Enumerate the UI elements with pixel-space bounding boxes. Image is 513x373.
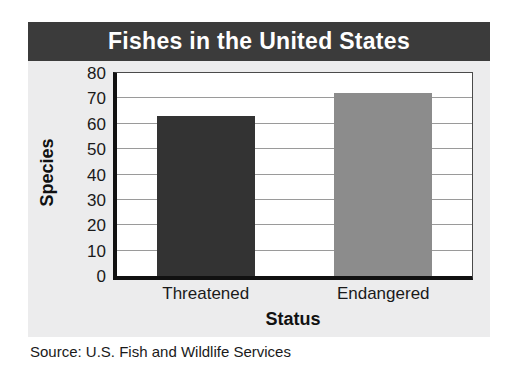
x-axis-title: Status	[113, 309, 473, 330]
y-tick-0: 0	[97, 268, 106, 285]
y-tick-50: 50	[87, 141, 106, 158]
chart-figure: Fishes in the United States Species 0102…	[0, 0, 513, 373]
y-tick-70: 70	[87, 90, 106, 107]
y-tick-60: 60	[87, 115, 106, 132]
y-axis-title-label: Species	[37, 138, 58, 206]
y-tick-10: 10	[87, 242, 106, 259]
y-tick-80: 80	[87, 65, 106, 82]
y-tick-40: 40	[87, 166, 106, 183]
chart-title-band: Fishes in the United States	[28, 22, 490, 61]
y-tick-20: 20	[87, 217, 106, 234]
x-axis-tick-label-endangered: Endangered	[293, 284, 473, 304]
y-axis-tick-labels: 01020304050607080	[62, 64, 110, 280]
plot-area	[113, 72, 473, 280]
y-axis-title: Species	[36, 72, 58, 272]
bar-endangered	[334, 93, 432, 276]
bar-threatened	[157, 116, 255, 276]
x-axis-tick-label-threatened: Threatened	[116, 284, 296, 304]
source-note: Source: U.S. Fish and Wildlife Services	[30, 343, 291, 360]
y-tick-30: 30	[87, 191, 106, 208]
chart-title: Fishes in the United States	[108, 28, 410, 55]
